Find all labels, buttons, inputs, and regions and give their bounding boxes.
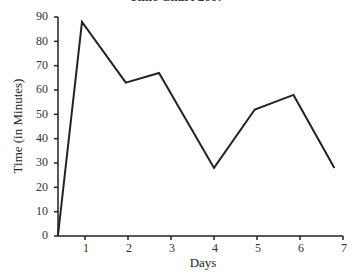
data-line [58,22,335,236]
axes [54,17,343,240]
line-chart: Time Chart 2007 Time (in Minutes) Days 0… [0,0,353,277]
plot-area [0,0,353,277]
